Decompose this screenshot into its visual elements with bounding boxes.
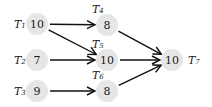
edge-t4-t7 (118, 31, 161, 54)
edge-t1-t5 (49, 30, 97, 55)
edge-t1-t4 (50, 24, 95, 25)
edge-t6-t7 (119, 65, 162, 85)
node-label: T7 (188, 54, 200, 67)
node-weight: 8 (104, 19, 111, 32)
node-weight: 10 (165, 54, 179, 67)
task-dependency-graph: 10T17T29T38T410T58T610T7 (0, 0, 212, 107)
node-weight: 7 (34, 54, 41, 67)
node-t4: 8T4 (92, 3, 118, 37)
node-t6: 8T6 (92, 69, 118, 103)
nodes: 10T17T29T38T410T58T610T7 (14, 3, 200, 103)
node-t7: 10T7 (161, 49, 200, 71)
node-weight: 8 (104, 85, 111, 98)
node-label: T4 (92, 3, 104, 16)
node-label: T6 (92, 69, 104, 82)
node-weight: 10 (100, 54, 114, 67)
node-label: T1 (14, 18, 26, 31)
node-t2: 7T2 (14, 49, 48, 71)
node-label: T3 (14, 85, 26, 98)
node-label: T5 (92, 38, 104, 51)
node-t3: 9T3 (14, 80, 48, 102)
node-t1: 10T1 (14, 13, 48, 35)
node-weight: 9 (34, 85, 41, 98)
node-weight: 10 (30, 18, 44, 31)
node-label: T2 (14, 54, 26, 67)
